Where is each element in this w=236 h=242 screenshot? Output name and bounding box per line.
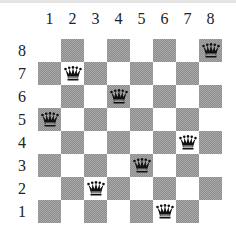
square-8-8[interactable] [199, 39, 222, 62]
square-2-7[interactable] [61, 62, 84, 85]
square-1-5[interactable] [38, 108, 61, 131]
square-7-7[interactable] [176, 62, 199, 85]
square-1-2[interactable] [38, 177, 61, 200]
queen-icon[interactable] [153, 200, 176, 223]
row-label: 3 [14, 154, 30, 177]
queen-icon[interactable] [38, 108, 61, 131]
square-2-5[interactable] [61, 108, 84, 131]
square-1-3[interactable] [38, 154, 61, 177]
square-8-7[interactable] [199, 62, 222, 85]
square-6-5[interactable] [153, 108, 176, 131]
square-7-1[interactable] [176, 200, 199, 223]
square-1-1[interactable] [38, 200, 61, 223]
square-8-3[interactable] [199, 154, 222, 177]
square-7-6[interactable] [176, 85, 199, 108]
square-7-4[interactable] [176, 131, 199, 154]
square-5-3[interactable] [130, 154, 153, 177]
queen-icon[interactable] [107, 85, 130, 108]
square-5-6[interactable] [130, 85, 153, 108]
column-label: 8 [199, 10, 222, 28]
square-7-2[interactable] [176, 177, 199, 200]
square-6-8[interactable] [153, 39, 176, 62]
square-7-5[interactable] [176, 108, 199, 131]
square-3-1[interactable] [84, 200, 107, 223]
chess-board [38, 39, 222, 223]
square-5-8[interactable] [130, 39, 153, 62]
square-5-2[interactable] [130, 177, 153, 200]
square-6-2[interactable] [153, 177, 176, 200]
square-1-4[interactable] [38, 131, 61, 154]
square-3-7[interactable] [84, 62, 107, 85]
square-6-1[interactable] [153, 200, 176, 223]
row-label: 1 [14, 200, 30, 223]
queen-icon[interactable] [84, 177, 107, 200]
row-label: 6 [14, 85, 30, 108]
square-1-7[interactable] [38, 62, 61, 85]
square-3-6[interactable] [84, 85, 107, 108]
column-label: 2 [61, 10, 84, 28]
square-4-7[interactable] [107, 62, 130, 85]
column-label: 1 [38, 10, 61, 28]
square-7-3[interactable] [176, 154, 199, 177]
square-6-7[interactable] [153, 62, 176, 85]
row-label: 5 [14, 108, 30, 131]
column-label: 6 [153, 10, 176, 28]
square-6-3[interactable] [153, 154, 176, 177]
square-8-6[interactable] [199, 85, 222, 108]
square-3-3[interactable] [84, 154, 107, 177]
square-3-8[interactable] [84, 39, 107, 62]
square-8-5[interactable] [199, 108, 222, 131]
queen-icon[interactable] [176, 131, 199, 154]
queen-icon[interactable] [61, 62, 84, 85]
square-5-4[interactable] [130, 131, 153, 154]
square-4-6[interactable] [107, 85, 130, 108]
square-4-8[interactable] [107, 39, 130, 62]
square-2-6[interactable] [61, 85, 84, 108]
square-8-1[interactable] [199, 200, 222, 223]
square-2-3[interactable] [61, 154, 84, 177]
row-label: 2 [14, 177, 30, 200]
column-label: 3 [84, 10, 107, 28]
square-2-1[interactable] [61, 200, 84, 223]
square-2-2[interactable] [61, 177, 84, 200]
square-7-8[interactable] [176, 39, 199, 62]
square-8-2[interactable] [199, 177, 222, 200]
square-8-4[interactable] [199, 131, 222, 154]
square-5-1[interactable] [130, 200, 153, 223]
queen-icon[interactable] [199, 39, 222, 62]
queen-icon[interactable] [130, 154, 153, 177]
square-4-1[interactable] [107, 200, 130, 223]
column-label: 4 [107, 10, 130, 28]
column-label: 5 [130, 10, 153, 28]
square-1-8[interactable] [38, 39, 61, 62]
square-4-4[interactable] [107, 131, 130, 154]
square-3-4[interactable] [84, 131, 107, 154]
square-4-3[interactable] [107, 154, 130, 177]
column-label: 7 [176, 10, 199, 28]
square-2-4[interactable] [61, 131, 84, 154]
square-3-5[interactable] [84, 108, 107, 131]
square-5-5[interactable] [130, 108, 153, 131]
square-4-2[interactable] [107, 177, 130, 200]
square-6-4[interactable] [153, 131, 176, 154]
row-label: 4 [14, 131, 30, 154]
square-1-6[interactable] [38, 85, 61, 108]
square-6-6[interactable] [153, 85, 176, 108]
row-label: 8 [14, 39, 30, 62]
square-2-8[interactable] [61, 39, 84, 62]
square-5-7[interactable] [130, 62, 153, 85]
top-border-line [0, 0, 236, 3]
row-label: 7 [14, 62, 30, 85]
square-4-5[interactable] [107, 108, 130, 131]
square-3-2[interactable] [84, 177, 107, 200]
